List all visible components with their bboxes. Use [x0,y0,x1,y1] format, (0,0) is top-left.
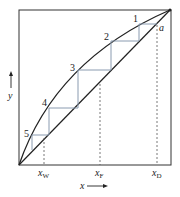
x-d-label: xD [151,167,162,180]
marker-lines [44,25,157,165]
operating-line [19,10,170,165]
y-arrowhead-icon [9,71,13,76]
top-corner-point [169,9,172,12]
y-axis-label: y [7,90,13,101]
x-arrowhead-icon [103,184,108,188]
stage-label-1: 1 [133,13,138,24]
stage-label-4: 4 [42,97,47,108]
stage-label-2: 2 [104,31,109,42]
x-axis-label: x [79,180,85,191]
point-label-a: a [159,22,164,33]
stage-label-3: 3 [70,62,75,73]
mccabe-thiele-diagram: 1 2 3 4 5 a xW xF xD x y [0,0,180,197]
x-w-label: xW [37,167,49,180]
stage-label-5: 5 [24,128,29,139]
x-f-label: xF [94,167,103,180]
